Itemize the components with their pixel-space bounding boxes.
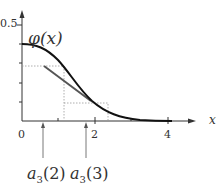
annotation-a3-2: a3(2) [27, 164, 66, 185]
dotted-guides [22, 66, 108, 121]
arrow-head-a3-3-icon [84, 122, 88, 128]
phi-label: φ(x) [28, 28, 63, 48]
x-tick-label-2: 2 [91, 128, 98, 141]
x-axis-label: x [209, 113, 216, 127]
x-tick-label-4: 4 [164, 128, 171, 141]
y-axis-arrow-icon [20, 10, 25, 18]
y-tick-label-0.5: 0.5 [0, 17, 18, 30]
x-axis-arrow-icon [188, 119, 196, 124]
x-tick-label-0: 0 [18, 128, 25, 141]
annotation-a3-3: a3(3) [70, 164, 109, 185]
phi-curve [22, 44, 172, 121]
arrow-head-a3-2-icon [41, 122, 45, 128]
y-ticks [17, 25, 22, 102]
